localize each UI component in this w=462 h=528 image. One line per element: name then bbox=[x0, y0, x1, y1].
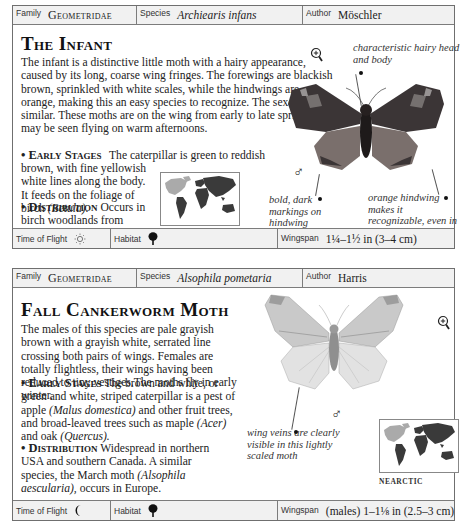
author-label: Author bbox=[306, 271, 331, 281]
species-value: Archiearis infans bbox=[177, 9, 256, 21]
magnifier-zoom-icon[interactable] bbox=[310, 47, 324, 63]
caption-hairy-head: characteristic hairy head and body bbox=[353, 42, 462, 65]
family-value: Geometridae bbox=[48, 8, 112, 23]
card-footer: Time of Flight Habitat Wingspan 1¼–1½ in… bbox=[13, 228, 454, 248]
wingspan-cell: Wingspan 1¼–1½ in (3–4 cm) bbox=[278, 229, 454, 248]
distribution-heading: • Distribution bbox=[21, 200, 98, 214]
caption-pointer-dot bbox=[359, 71, 363, 75]
species-label: Species bbox=[140, 8, 170, 18]
card-header: Family Geometridae Species Alsophila pom… bbox=[13, 269, 454, 288]
caption-leader-line bbox=[291, 387, 299, 430]
time-of-flight-cell: Time of Flight bbox=[13, 501, 111, 520]
caption-bold-markings: bold, dark markings on hindwing bbox=[269, 194, 341, 229]
time-of-flight-label: Time of Flight bbox=[16, 234, 67, 244]
habitat-label: Habitat bbox=[114, 234, 141, 244]
moth-illustration-cankerworm bbox=[259, 291, 409, 393]
wingspan-value: 1¼–1½ in (3–4 cm) bbox=[326, 233, 417, 245]
species-title: Fall Cankerworm Moth bbox=[21, 299, 229, 321]
family-value: Geometridae bbox=[48, 271, 112, 286]
deciduous-tree-icon bbox=[148, 232, 158, 245]
wingspan-label: Wingspan bbox=[281, 505, 319, 515]
caption-leader-line bbox=[315, 174, 320, 196]
male-symbol: ♂ bbox=[293, 164, 304, 181]
early-stages-heading: • Early Stages bbox=[21, 376, 101, 390]
card-footer: Time of Flight Habitat Wingspan (males) … bbox=[13, 500, 454, 520]
map-region-label: NEARCTIC bbox=[379, 477, 423, 486]
species-value: Alsophila pometaria bbox=[177, 272, 271, 284]
family-label: Family bbox=[16, 271, 41, 281]
species-card-the-infant: Family Geometridae Species Archiearis in… bbox=[12, 5, 455, 249]
species-title: The Infant bbox=[21, 33, 112, 55]
distribution-section: • Distribution Widespread in northern US… bbox=[21, 442, 221, 495]
species-label: Species bbox=[140, 271, 170, 281]
family-cell: Family Geometridae bbox=[13, 269, 137, 287]
caption-pointer-dot bbox=[444, 196, 448, 200]
range-map bbox=[379, 419, 459, 473]
distribution-text-end: occurs in Europe. bbox=[80, 482, 161, 495]
range-map bbox=[160, 172, 240, 226]
habitat-cell: Habitat bbox=[111, 501, 278, 520]
wingspan-cell: Wingspan (males) 1–1⅛ in (2.5–3 cm) bbox=[278, 501, 454, 520]
male-symbol: ♂ bbox=[331, 406, 342, 423]
caption-pointer-dot bbox=[318, 197, 322, 201]
magnifier-zoom-icon[interactable] bbox=[437, 315, 451, 331]
wingspan-label: Wingspan bbox=[281, 233, 319, 243]
author-cell: Author Möschler bbox=[303, 6, 454, 24]
author-label: Author bbox=[306, 8, 331, 18]
moon-icon bbox=[74, 504, 84, 517]
time-of-flight-label: Time of Flight bbox=[16, 506, 67, 516]
time-of-flight-cell: Time of Flight bbox=[13, 229, 111, 248]
moth-illustration-infant bbox=[286, 66, 446, 176]
wingspan-value: (males) 1–1⅛ in (2.5–3 cm) bbox=[326, 505, 454, 517]
habitat-label: Habitat bbox=[114, 506, 141, 516]
author-value: Harris bbox=[338, 272, 367, 284]
distribution-heading: • Distribution bbox=[21, 441, 98, 455]
caption-pointer-dot bbox=[294, 430, 298, 434]
habitat-cell: Habitat bbox=[111, 229, 278, 248]
family-label: Family bbox=[16, 8, 41, 18]
early-stages-section: • Early Stages The brown and white, or g… bbox=[21, 377, 243, 443]
species-card-fall-cankerworm-moth: Family Geometridae Species Alsophila pom… bbox=[12, 268, 455, 521]
species-cell: Species Archiearis infans bbox=[137, 6, 303, 24]
world-map-icon bbox=[380, 420, 458, 472]
world-map-icon bbox=[161, 173, 239, 225]
family-cell: Family Geometridae bbox=[13, 6, 137, 24]
latin-name-acer: (Acer) bbox=[197, 417, 227, 430]
sun-icon bbox=[74, 233, 86, 245]
deciduous-tree-icon bbox=[148, 504, 158, 517]
latin-name-malus: (Malus domestica) bbox=[49, 404, 136, 417]
author-value: Möschler bbox=[338, 9, 381, 21]
author-cell: Author Harris bbox=[303, 269, 454, 287]
card-header: Family Geometridae Species Archiearis in… bbox=[13, 6, 454, 25]
species-cell: Species Alsophila pometaria bbox=[137, 269, 303, 287]
